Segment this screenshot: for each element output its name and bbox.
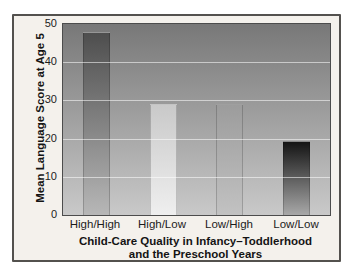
gridline-30 — [63, 100, 330, 101]
y-tick-label-30: 30 — [27, 93, 57, 106]
x-tick-label-low-low: Low/Low — [256, 218, 336, 230]
gridline-20 — [63, 139, 330, 140]
y-tick-label-10: 10 — [27, 170, 57, 183]
y-tick-label-50: 50 — [27, 17, 57, 30]
bar-low-low — [283, 141, 310, 215]
x-axis-title-line1: Child-Care Quality in Infancy–Toddlerhoo… — [48, 235, 343, 248]
chart-panel: Mean Language Score at Age 5 Child-Care … — [12, 14, 341, 262]
x-axis-title-line2: and the Preschool Years — [48, 248, 343, 261]
plot-area — [62, 23, 331, 216]
bar-high-high — [83, 32, 110, 215]
gridline-40 — [63, 62, 330, 63]
bar-high-low — [150, 104, 177, 215]
y-tick-label-20: 20 — [27, 132, 57, 145]
figure-canvas: Mean Language Score at Age 5 Child-Care … — [0, 0, 353, 276]
y-tick-label-0: 0 — [27, 208, 57, 221]
y-tick-label-40: 40 — [27, 55, 57, 68]
bar-low-high — [216, 104, 243, 215]
gridline-10 — [63, 177, 330, 178]
